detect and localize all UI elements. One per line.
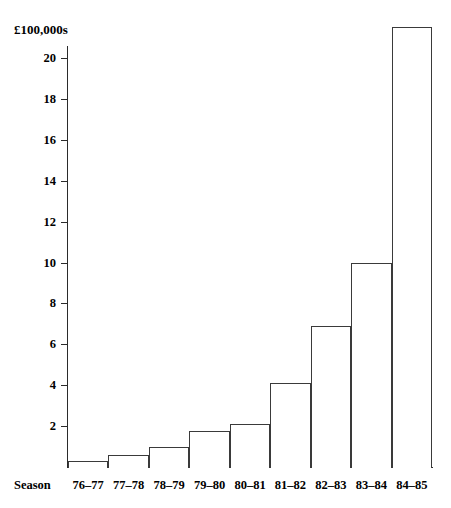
bar	[189, 431, 229, 468]
y-tick-mark	[61, 303, 68, 304]
x-axis-labels: Season 76–7777–7878–7979–8080–8181–8282–…	[0, 476, 451, 500]
y-tick-label: 6	[16, 338, 56, 351]
bar	[108, 455, 148, 468]
bar	[149, 447, 189, 468]
y-tick-label: 10	[16, 257, 56, 270]
y-tick-label: 2	[16, 420, 56, 433]
bar	[68, 461, 108, 468]
y-tick-label: 14	[16, 175, 56, 188]
y-tick-mark	[61, 344, 68, 345]
bar	[392, 27, 432, 468]
y-tick-label: 4	[16, 379, 56, 392]
bar-chart: £100,000s 2468101214161820 Season 76–777…	[0, 0, 451, 508]
y-tick-label: 20	[16, 52, 56, 65]
y-tick-mark	[61, 263, 68, 264]
y-tick-mark	[61, 99, 68, 100]
y-tick-mark	[61, 222, 68, 223]
y-tick-label: 16	[16, 134, 56, 147]
y-axis-title: £100,000s	[14, 22, 68, 38]
bar	[230, 424, 270, 468]
y-tick-mark	[61, 140, 68, 141]
bar	[311, 326, 351, 468]
y-tick-label: 8	[16, 297, 56, 310]
bar	[351, 263, 391, 469]
y-tick-mark	[61, 181, 68, 182]
y-tick-mark	[61, 426, 68, 427]
y-tick-label: 18	[16, 93, 56, 106]
plot-area	[68, 46, 432, 468]
y-tick-mark	[61, 58, 68, 59]
x-category-label: 84–85	[388, 478, 436, 493]
bar	[270, 383, 310, 468]
y-tick-label: 12	[16, 216, 56, 229]
y-tick-mark	[61, 385, 68, 386]
x-axis-title: Season	[14, 478, 51, 493]
